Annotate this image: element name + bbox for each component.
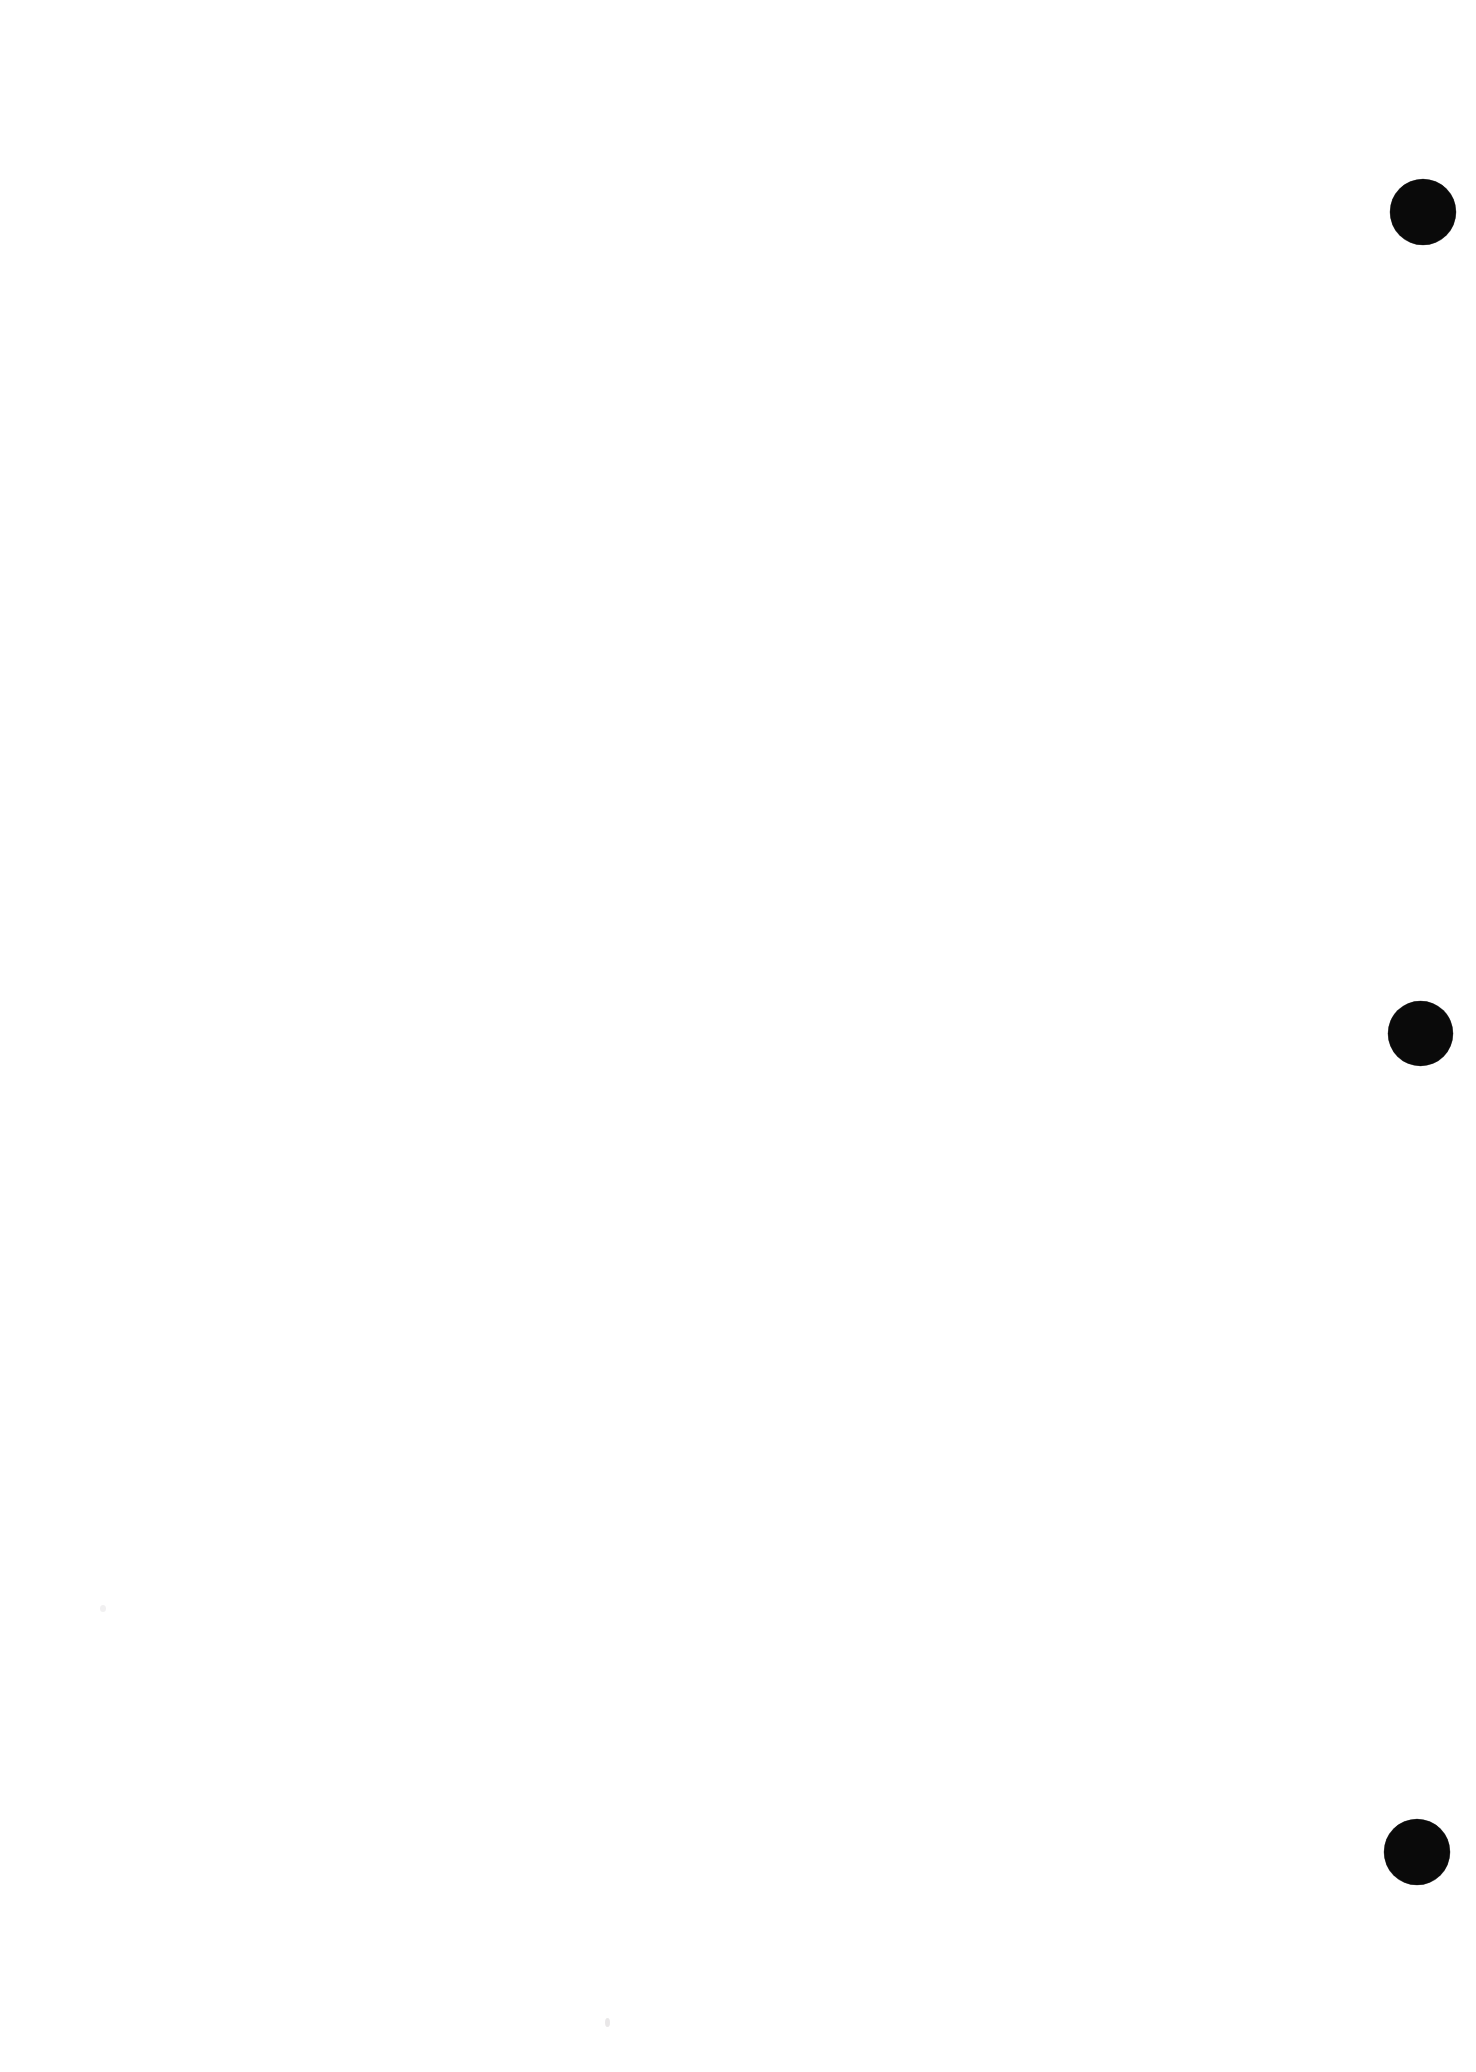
scanned-page: Blank scanned page with three solid blac… [0, 0, 1476, 2072]
dust-speck-bottom [605, 2018, 610, 2027]
margin-mark-bottom-circle-icon [1384, 1819, 1450, 1885]
dust-speck-left [100, 1605, 106, 1612]
margin-mark-middle-circle-icon [1388, 1001, 1453, 1066]
margin-mark-top-circle-icon [1390, 179, 1456, 245]
page-surface [0, 0, 1476, 2072]
